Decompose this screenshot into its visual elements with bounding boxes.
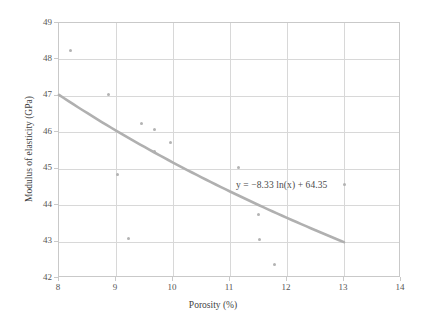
trendline — [59, 23, 401, 278]
trendline-curve — [59, 95, 344, 242]
y-axis-tick-label: 42 — [28, 273, 52, 282]
x-axis-tick-label: 10 — [160, 283, 184, 292]
y-axis-tick-label: 49 — [28, 18, 52, 27]
x-axis-title: Porosity (%) — [0, 300, 426, 310]
scatter-chart: 4243444546474849 891011121314 y = −8.33 … — [0, 0, 426, 326]
x-axis-tick-label: 12 — [274, 283, 298, 292]
x-axis-tick-label: 14 — [388, 283, 412, 292]
x-axis-tick-label: 13 — [331, 283, 355, 292]
x-axis-tick-label: 9 — [103, 283, 127, 292]
trendline-equation-label: y = −8.33 ln(x) + 64.35 — [236, 180, 327, 190]
y-axis-title: Modulus of elasticity (GPa) — [24, 49, 34, 249]
x-axis-tick-label: 11 — [217, 283, 241, 292]
plot-area — [58, 22, 400, 277]
x-axis-tick-label: 8 — [46, 283, 70, 292]
